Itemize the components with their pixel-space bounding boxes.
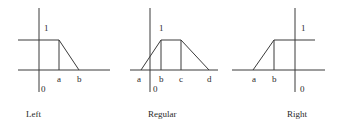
right-rising-slope (253, 40, 274, 70)
regular-point-b: b (159, 74, 164, 84)
right-one-label: 1 (301, 23, 306, 33)
regular-falling-slope (181, 40, 209, 70)
left-one-label: 1 (44, 23, 49, 33)
regular-zero-label: 0 (153, 84, 158, 94)
regular-point-d: d (207, 74, 212, 84)
left-zero-label: 0 (41, 84, 46, 94)
regular-caption: Regular (148, 109, 177, 119)
regular-point-c: c (179, 74, 183, 84)
right-zero-label: 0 (300, 84, 305, 94)
panel-right: 1 0 a b Right (232, 8, 325, 119)
right-caption: Right (287, 109, 308, 119)
regular-rising-slope (141, 40, 161, 70)
membership-functions-diagram: 1 0 a b Left 1 0 a b c d Regular 1 0 a b… (0, 0, 339, 128)
regular-one-label: 1 (159, 23, 164, 33)
left-point-b: b (77, 74, 82, 84)
right-point-b: b (272, 74, 277, 84)
panel-regular: 1 0 a b c d Regular (130, 8, 218, 119)
left-falling-slope (59, 40, 79, 70)
left-point-a: a (57, 74, 61, 84)
right-point-a: a (252, 74, 256, 84)
left-caption: Left (26, 109, 41, 119)
panel-left: 1 0 a b Left (18, 8, 110, 119)
regular-point-a: a (137, 74, 141, 84)
